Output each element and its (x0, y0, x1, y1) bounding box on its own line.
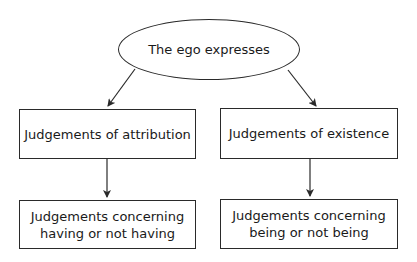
node-label-line2: having or not having (40, 225, 175, 242)
root-node-ego-expresses: The ego expresses (118, 19, 300, 80)
node-label-line2: being or not being (249, 224, 369, 241)
arrow-root-to-existence (288, 70, 316, 106)
node-label: Judgements of attribution (24, 126, 191, 143)
arrow-root-to-attribution (108, 69, 135, 106)
node-judgements-of-attribution: Judgements of attribution (19, 109, 196, 159)
node-judgements-having-or-not-having: Judgements concerning having or not havi… (19, 200, 196, 249)
node-judgements-of-existence: Judgements of existence (220, 108, 398, 159)
root-node-label: The ego expresses (148, 41, 270, 58)
node-judgements-being-or-not-being: Judgements concerning being or not being (220, 199, 398, 249)
node-label-line1: Judgements concerning (232, 207, 385, 224)
node-label-line1: Judgements concerning (31, 208, 184, 225)
node-label: Judgements of existence (229, 125, 389, 142)
